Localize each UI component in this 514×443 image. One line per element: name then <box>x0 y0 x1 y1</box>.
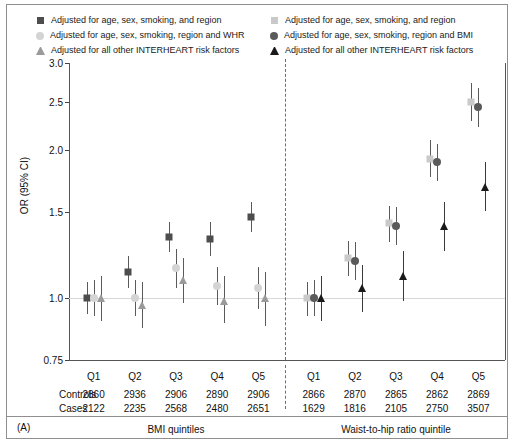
table-cell-cases: 2568 <box>165 403 187 414</box>
figure-tag: (A) <box>17 422 30 433</box>
table-cell-cases: 2651 <box>247 403 269 414</box>
figure-root: Adjusted for age, sex, smoking, and regi… <box>0 0 514 443</box>
table-cell-controls: 2860 <box>82 389 104 400</box>
x-tick-label: Q5 <box>252 371 265 382</box>
table-cell-cases: 2480 <box>206 403 228 414</box>
table-cell-cases: 2105 <box>385 403 407 414</box>
table-cell-controls: 2936 <box>124 389 146 400</box>
table-cell-controls: 2906 <box>247 389 269 400</box>
figure-frame: Adjusted for age, sex, smoking, and regi… <box>6 4 508 439</box>
table-cell-controls: 2890 <box>206 389 228 400</box>
x-tick-label: Q2 <box>348 371 361 382</box>
x-tick-label: Q1 <box>87 371 100 382</box>
table-cell-cases: 3507 <box>467 403 489 414</box>
x-tick-label: Q1 <box>307 371 320 382</box>
table-cell-cases: 1629 <box>302 403 324 414</box>
panel-title: BMI quintiles <box>147 424 204 435</box>
table-cell-controls: 2870 <box>344 389 366 400</box>
table-cell-cases: 1816 <box>344 403 366 414</box>
x-tick-label: Q3 <box>389 371 402 382</box>
x-tick-label: Q3 <box>169 371 182 382</box>
table-cell-controls: 2866 <box>302 389 324 400</box>
table-cell-cases: 2122 <box>82 403 104 414</box>
table-cell-cases: 2750 <box>426 403 448 414</box>
x-tick-label: Q2 <box>128 371 141 382</box>
x-tick-label: Q4 <box>431 371 444 382</box>
panel-title: Waist-to-hip ratio quintile <box>341 424 451 435</box>
table-cell-controls: 2865 <box>385 389 407 400</box>
x-tick-label: Q5 <box>472 371 485 382</box>
table-separator-line <box>7 416 507 417</box>
x-tick-label: Q4 <box>211 371 224 382</box>
table-cell-controls: 2906 <box>165 389 187 400</box>
table-cell-controls: 2869 <box>467 389 489 400</box>
table-panel-divider <box>285 365 286 409</box>
table-cell-cases: 2235 <box>124 403 146 414</box>
data-table: ControlsCasesQ128602122Q229362235Q329062… <box>7 5 509 440</box>
table-cell-controls: 2862 <box>426 389 448 400</box>
